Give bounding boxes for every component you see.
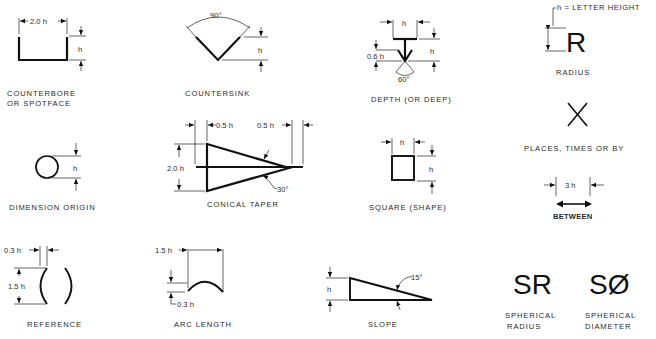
square-symbol: h h SQUARE (SHAPE): [369, 138, 447, 212]
between-width-dim: 3 h: [565, 181, 576, 190]
conical-taper-icon: [196, 144, 303, 191]
between-arrow-icon: [556, 201, 592, 208]
countersink-height-dim: h: [258, 46, 262, 55]
slope-angle-dim: 15°: [411, 273, 422, 282]
radius-symbol: h = LETTER HEIGHT R RADIUS: [545, 3, 640, 77]
spherical-diameter-label: SPHERICAL: [585, 311, 636, 320]
square-label: SQUARE (SHAPE): [369, 203, 447, 212]
spherical-diameter-symbol: SØ SPHERICAL DIAMETER: [585, 269, 636, 331]
spherical-radius-label: SPHERICAL: [505, 311, 556, 320]
counterbore-label: COUNTERBORE: [7, 89, 76, 98]
slope-label: SLOPE: [368, 320, 398, 329]
depth-arrow-dim: 0.6 h: [367, 52, 384, 61]
taper-right-dim: 0.5 h: [257, 121, 274, 130]
spherical-radius-symbol: SR SPHERICAL RADIUS: [505, 269, 556, 331]
places-symbol: PLACES, TIMES OR BY: [524, 103, 624, 153]
arc-length-height-dim: 0.3 h: [177, 300, 194, 309]
between-label: BETWEEN: [553, 212, 592, 221]
reference-parentheses-icon: [41, 268, 72, 304]
slope-symbol: h 15° SLOPE: [326, 267, 432, 329]
counterbore-width-dim: 2.0 h: [30, 17, 47, 26]
slope-height-dim: h: [327, 285, 331, 294]
symbols-diagram: 2.0 h h COUNTERBORE OR SPOTFACE 90° h CO…: [0, 0, 656, 339]
depth-symbol: h h 0.6 h 60° DEPTH (OR DEEP): [367, 19, 452, 104]
depth-width-dim: h: [402, 19, 406, 28]
countersink-icon: [196, 37, 240, 60]
between-symbol: 3 h BETWEEN: [544, 177, 604, 221]
arc-length-icon: [188, 282, 223, 292]
counterbore-icon: [19, 37, 67, 60]
radius-label: RADIUS: [556, 68, 590, 77]
depth-angle-dim: 60°: [398, 75, 409, 84]
square-width-dim: h: [400, 138, 404, 147]
spherical-radius-icon: SR: [513, 269, 552, 300]
taper-left-dim: 0.5 h: [216, 121, 233, 130]
dimension-origin-height-dim: h: [73, 164, 77, 173]
reference-gap-dim: 0.3 h: [4, 246, 21, 255]
square-icon: [392, 156, 414, 180]
spherical-diameter-label-2: DIAMETER: [585, 322, 631, 331]
dimension-origin-icon: [36, 156, 58, 178]
conical-taper-label: CONICAL TAPER: [207, 200, 279, 209]
depth-label: DEPTH (OR DEEP): [371, 95, 452, 104]
counterbore-symbol: 2.0 h h COUNTERBORE OR SPOTFACE: [7, 17, 86, 108]
countersink-label: COUNTERSINK: [185, 89, 250, 98]
places-label: PLACES, TIMES OR BY: [524, 144, 624, 153]
arc-length-label: ARC LENGTH: [174, 320, 232, 329]
conical-taper-symbol: 0.5 h 0.5 h 2.0 h 30° CONICAL TAPER: [167, 120, 313, 209]
counterbore-label-2: OR SPOTFACE: [7, 99, 71, 108]
spherical-radius-label-2: RADIUS: [507, 322, 541, 331]
taper-height-dim: 2.0 h: [167, 164, 184, 173]
dimension-origin-symbol: h DIMENSION ORIGIN: [9, 143, 96, 212]
times-x-icon: [568, 103, 587, 126]
counterbore-height-dim: h: [78, 45, 82, 54]
square-height-dim: h: [429, 165, 433, 174]
taper-angle-dim: 30°: [277, 185, 288, 194]
reference-label: REFERENCE: [27, 320, 82, 329]
countersink-symbol: 90° h COUNTERSINK: [185, 11, 268, 98]
radius-icon: R: [566, 27, 586, 58]
reference-height-dim: 1.5 h: [8, 282, 25, 291]
letter-height-note: h = LETTER HEIGHT: [557, 3, 640, 12]
arc-length-symbol: 1.5 h 0.3 h ARC LENGTH: [155, 246, 232, 329]
spherical-diameter-icon: SØ: [589, 269, 629, 300]
depth-height-dim: h: [430, 47, 434, 56]
arc-length-width-dim: 1.5 h: [155, 246, 172, 255]
countersink-angle-dim: 90°: [210, 11, 221, 20]
dimension-origin-label: DIMENSION ORIGIN: [9, 203, 96, 212]
reference-symbol: 0.3 h 1.5 h REFERENCE: [4, 246, 82, 329]
